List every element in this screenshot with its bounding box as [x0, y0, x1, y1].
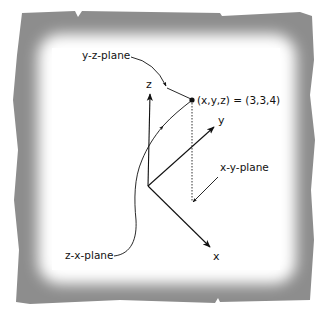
point-label: (x,y,z) = (3,3,4) — [197, 94, 280, 106]
torn-paper-frame — [13, 11, 315, 304]
z-axis-label: z — [146, 78, 152, 91]
diagram-canvas: z y x (x,y,z) = (3,3,4) y-z-plane x-y-pl… — [0, 0, 330, 314]
coordinate-diagram: z y x (x,y,z) = (3,3,4) y-z-plane x-y-pl… — [0, 0, 330, 314]
x-axis-label: x — [213, 250, 220, 263]
y-axis-label: y — [218, 114, 225, 127]
zx-plane-label: z-x-plane — [65, 249, 113, 261]
yz-plane-label: y-z-plane — [82, 49, 130, 61]
xy-plane-label: x-y-plane — [220, 161, 269, 173]
